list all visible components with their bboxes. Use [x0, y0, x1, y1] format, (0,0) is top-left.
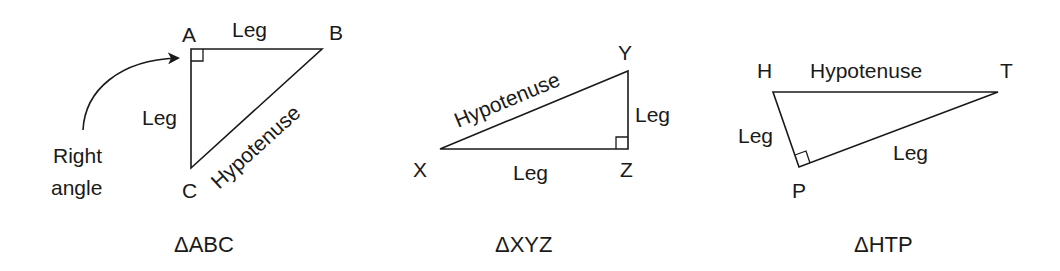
right-triangles-diagram: A B C Leg Leg Hypotenuse Right angle ΔAB…: [0, 0, 1060, 271]
triangle-htp: H T P Hypotenuse Leg Leg ΔHTP: [738, 59, 1013, 257]
right-angle-marker-a: [191, 49, 203, 61]
vertex-label-x: X: [413, 158, 427, 181]
side-label-bc-hypotenuse: Hypotenuse: [206, 101, 304, 193]
caption-xyz: ΔXYZ: [495, 232, 552, 257]
triangle-htp-outline: [773, 92, 998, 167]
vertex-label-a: A: [182, 23, 196, 46]
caption-htp: ΔHTP: [854, 232, 913, 257]
vertex-label-h: H: [757, 59, 772, 82]
side-label-ac: Leg: [142, 106, 177, 129]
side-label-xz: Leg: [513, 161, 548, 184]
vertex-label-c: C: [182, 179, 197, 202]
vertex-label-b: B: [329, 21, 343, 44]
vertex-label-t: T: [1000, 59, 1013, 82]
triangle-xyz: X Y Z Hypotenuse Leg Leg ΔXYZ: [413, 41, 670, 257]
caption-abc: ΔABC: [174, 232, 234, 257]
side-label-ab: Leg: [232, 18, 267, 41]
annotation-right: Right: [53, 144, 102, 167]
vertex-label-z: Z: [620, 158, 633, 181]
side-label-hp: Leg: [738, 124, 773, 147]
triangle-abc: A B C Leg Leg Hypotenuse Right angle ΔAB…: [51, 18, 343, 257]
side-label-pt: Leg: [893, 141, 928, 164]
vertex-label-y: Y: [618, 41, 632, 64]
vertex-label-p: P: [792, 179, 806, 202]
side-label-ht-hypotenuse: Hypotenuse: [810, 59, 922, 82]
side-label-yz: Leg: [635, 103, 670, 126]
right-angle-marker-z: [616, 137, 628, 149]
annotation-angle: angle: [51, 176, 102, 199]
